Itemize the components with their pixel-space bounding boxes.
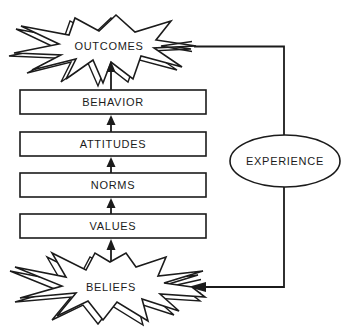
behavior-node: BEHAVIOR bbox=[20, 90, 206, 114]
arrow-norms-to-attitudes bbox=[107, 157, 116, 173]
flow-diagram: OUTCOMES BELIEFS EXPERIENCE BEHAVIOR ATT… bbox=[0, 0, 355, 332]
arrowhead-into-norms bbox=[107, 198, 116, 208]
behavior-label: BEHAVIOR bbox=[82, 96, 144, 108]
arrowhead-into-behavior bbox=[107, 115, 116, 125]
arrow-beliefs-to-values bbox=[107, 239, 116, 261]
connector-outcomes-experience bbox=[194, 47, 284, 136]
arrowhead-into-attitudes bbox=[107, 157, 116, 167]
values-node: VALUES bbox=[20, 214, 206, 238]
experience-label: EXPERIENCE bbox=[246, 155, 324, 167]
norms-node: NORMS bbox=[20, 173, 206, 197]
outcomes-label: OUTCOMES bbox=[74, 40, 143, 52]
outcomes-starburst: OUTCOMES bbox=[9, 15, 196, 86]
arrow-attitudes-to-behavior bbox=[107, 115, 116, 132]
beliefs-starburst: BELIEFS bbox=[10, 253, 205, 325]
diagram-canvas: OUTCOMES BELIEFS EXPERIENCE BEHAVIOR ATT… bbox=[0, 0, 355, 332]
attitudes-label: ATTITUDES bbox=[80, 138, 147, 150]
beliefs-label: BELIEFS bbox=[86, 281, 136, 293]
connector-experience-beliefs bbox=[205, 187, 284, 287]
values-label: VALUES bbox=[90, 220, 137, 232]
experience-node: EXPERIENCE bbox=[230, 135, 340, 187]
norms-label: NORMS bbox=[91, 179, 135, 191]
attitudes-node: ATTITUDES bbox=[20, 132, 206, 156]
arrowhead-into-values bbox=[107, 239, 116, 250]
arrow-values-to-norms bbox=[107, 198, 116, 214]
